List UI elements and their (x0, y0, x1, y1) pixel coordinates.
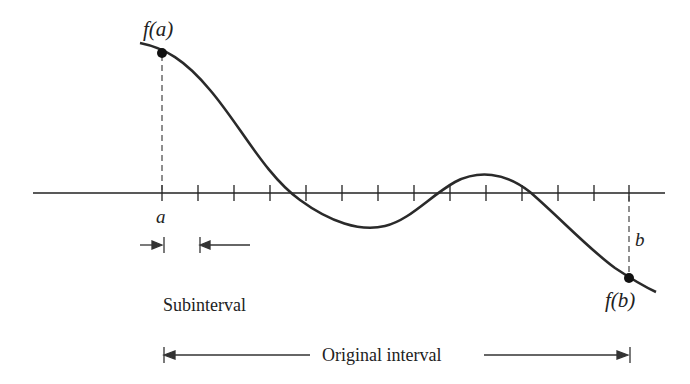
label-original-interval: Original interval (322, 346, 441, 364)
label-fb: f(b) (605, 290, 635, 311)
label-fa: f(a) (143, 19, 173, 40)
subinterval-arrows (140, 237, 250, 253)
interval-diagram (0, 0, 690, 384)
point-fb (624, 273, 634, 283)
point-fa (157, 48, 167, 58)
label-a: a (156, 207, 166, 226)
label-subinterval: Subinterval (163, 296, 246, 314)
label-b: b (635, 230, 645, 249)
function-curve (140, 43, 656, 292)
